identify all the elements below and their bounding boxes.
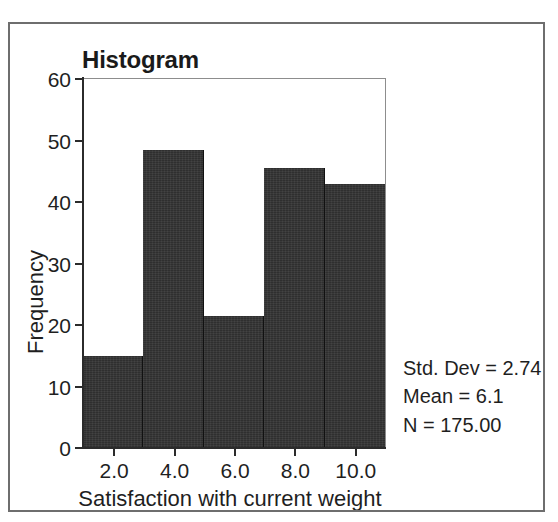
x-axis-tick: 8.0 (294, 449, 296, 456)
x-axis-tick: 10.0 (355, 449, 357, 456)
stat-std-dev: Std. Dev = 2.74 (403, 354, 541, 382)
stat-n: N = 175.00 (403, 411, 541, 439)
y-axis-tick: 50 (75, 140, 82, 142)
x-axis-tick-label: 8.0 (281, 460, 310, 481)
y-axis-tick-label: 20 (48, 315, 71, 336)
y-axis-tick-label: 40 (48, 192, 71, 213)
y-axis-tick: 0 (75, 447, 82, 449)
y-axis-tick-label: 10 (48, 376, 71, 397)
y-axis-tick: 60 (75, 78, 82, 80)
y-axis-tick-label: 50 (48, 130, 71, 151)
y-axis-tick-label: 0 (59, 438, 71, 459)
histogram-bar (325, 184, 385, 448)
histogram-figure: Histogram 0102030405060 2.04.06.08.010.0… (8, 22, 545, 512)
y-axis-tick: 10 (75, 386, 82, 388)
x-axis-tick: 6.0 (234, 449, 236, 456)
stat-mean: Mean = 6.1 (403, 382, 541, 410)
y-axis-line (82, 77, 84, 449)
y-axis-tick: 20 (75, 324, 82, 326)
x-axis-tick-label: 2.0 (100, 460, 129, 481)
chart-title: Histogram (82, 46, 199, 74)
plot-area (83, 78, 386, 448)
histogram-bar (204, 316, 264, 448)
histogram-bar (83, 356, 143, 448)
y-axis-tick-label: 60 (48, 69, 71, 90)
x-axis-tick: 4.0 (174, 449, 176, 456)
y-axis-tick-label: 30 (48, 253, 71, 274)
x-axis-title: Satisfaction with current weight (50, 486, 410, 512)
y-axis-title: Frequency (23, 202, 49, 402)
histogram-bar (264, 168, 324, 448)
histogram-bar (143, 150, 203, 448)
y-axis-tick: 40 (75, 201, 82, 203)
y-axis-tick: 30 (75, 263, 82, 265)
x-axis-tick-label: 10.0 (335, 460, 376, 481)
x-axis-tick-label: 4.0 (160, 460, 189, 481)
x-axis-tick: 2.0 (113, 449, 115, 456)
bars-group (83, 79, 385, 448)
statistics-annotation: Std. Dev = 2.74 Mean = 6.1 N = 175.00 (403, 354, 541, 439)
x-axis-tick-label: 6.0 (220, 460, 249, 481)
